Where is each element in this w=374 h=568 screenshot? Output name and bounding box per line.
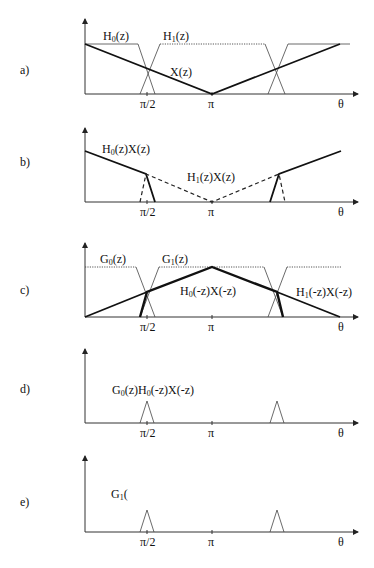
- spectrum-peak-left: [140, 510, 154, 532]
- tick-label-half-pi: π/2: [140, 205, 155, 219]
- tick-label-half-pi: π/2: [140, 320, 155, 334]
- panel-label-a: a): [20, 63, 29, 77]
- h0x-curve: [85, 151, 155, 202]
- panel-a: a) H0(z) H1(z) X(z) π/2 π θ: [20, 19, 358, 111]
- tick-label-pi: π: [208, 426, 214, 440]
- label-g1: G1(z): [162, 252, 188, 267]
- tick-label-pi: π: [208, 535, 214, 549]
- h0x-curve-mirror: [270, 151, 341, 202]
- panel-e: e) G1( π/2 π θ: [20, 456, 358, 549]
- label-g1-truncated: G1(: [111, 487, 128, 502]
- label-h0x: H0(-z)X(-z): [180, 284, 236, 299]
- filter-bank-diagram: a) H0(z) H1(z) X(z) π/2 π θ b) H0(z)X(z)…: [0, 0, 374, 568]
- spectrum-peak-right: [270, 401, 284, 423]
- tick-label-half-pi: π/2: [140, 426, 155, 440]
- panel-label-e: e): [20, 495, 29, 509]
- panel-c: c) G0(z) G1(z) H0(-z)X(-z) H1(-z)X(-z) π…: [20, 243, 358, 334]
- tick-label-pi: π: [208, 320, 214, 334]
- h1x-left: [85, 292, 147, 317]
- label-h1x: H1(z)X(z): [187, 170, 235, 185]
- panel-label-d: d): [20, 382, 30, 396]
- axis-label-theta: θ: [338, 205, 344, 219]
- tick-label-half-pi: π/2: [140, 97, 155, 111]
- axis-label-theta: θ: [338, 535, 344, 549]
- tick-label-pi: π: [208, 205, 214, 219]
- label-h1x: H1(-z)X(-z): [296, 285, 352, 300]
- panel-b: b) H0(z)X(z) H1(z)X(z) π/2 π θ: [20, 128, 358, 219]
- axis-label-theta: θ: [338, 97, 344, 111]
- spectrum-peak-right: [270, 510, 284, 532]
- axis-label-theta: θ: [338, 426, 344, 440]
- tick-label-half-pi: π/2: [140, 535, 155, 549]
- x-curve: [85, 44, 340, 94]
- spectrum-peak-left: [140, 401, 154, 423]
- panel-label-c: c): [20, 283, 29, 297]
- panel-d: d) G0(z)H0(-z)X(-z) π/2 π θ: [20, 349, 358, 440]
- tick-label-pi: π: [208, 97, 214, 111]
- panel-label-b: b): [20, 155, 30, 169]
- label-x: X(z): [170, 65, 192, 79]
- axis-label-theta: θ: [338, 320, 344, 334]
- label-h1: H1(z): [163, 29, 189, 44]
- h0-curve: [85, 44, 155, 94]
- label-h0x: H0(z)X(z): [102, 142, 150, 157]
- h0-curve-mirror: [268, 44, 350, 94]
- label-h0: H0(z): [103, 29, 129, 44]
- label-g0: G0(z): [100, 252, 126, 267]
- label-g0h0x: G0(z)H0(-z)X(-z): [112, 383, 194, 398]
